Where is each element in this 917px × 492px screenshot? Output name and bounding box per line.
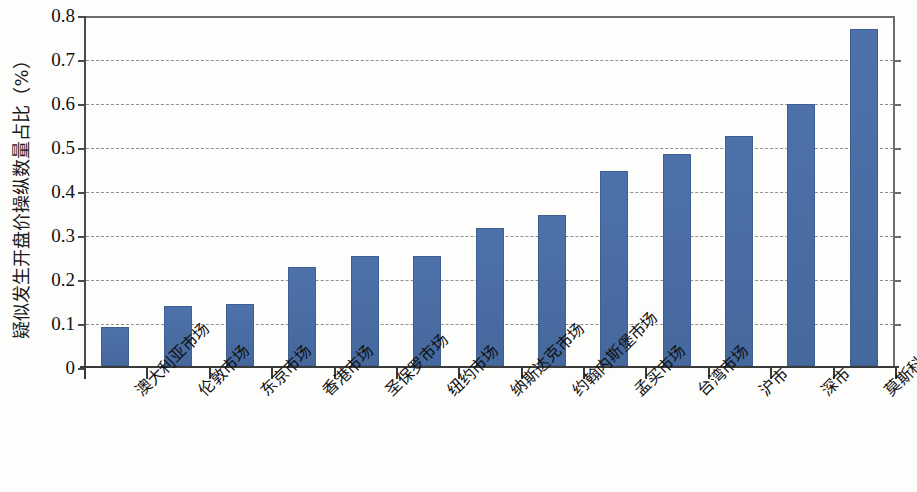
bar-chart: 疑似发生开盘价操纵数量占比（%） 0.80.70.60.50.40.30.20.… (0, 0, 917, 492)
y-axis-tick-label: 0.4 (51, 181, 75, 203)
gridline (86, 192, 893, 193)
plot-frame-top (84, 16, 895, 18)
y-axis-tick-mark-right (893, 192, 901, 194)
bar (725, 136, 753, 366)
x-axis-category-label: 纳斯达克市场 (504, 384, 521, 401)
bar (787, 104, 815, 366)
y-axis-tick-label: 0 (66, 357, 76, 379)
y-axis-tick-mark-right (893, 104, 901, 106)
y-axis-tick-mark (78, 16, 86, 18)
x-axis-category-label: 约翰内斯堡市场 (566, 384, 583, 401)
bar (850, 29, 878, 366)
x-axis-category-label: 香港市场 (316, 384, 333, 401)
y-axis-tick-mark (78, 280, 86, 282)
y-axis-tick-mark (78, 148, 86, 150)
y-axis-tick-mark-right (893, 324, 901, 326)
y-axis-tick-mark (78, 192, 86, 194)
y-axis-tick-label: 0.8 (51, 5, 75, 27)
bar (663, 154, 691, 366)
y-axis-tick-mark-right (893, 148, 901, 150)
y-axis-tick-label: 0.1 (51, 313, 75, 335)
bar (101, 327, 129, 366)
y-axis-tick-label: 0.7 (51, 49, 75, 71)
x-axis-category-label: 澳大利亚市场 (129, 384, 146, 401)
x-axis-category-label: 伦敦市场 (192, 384, 209, 401)
y-axis-title: 疑似发生开盘价操纵数量占比（%） (7, 7, 33, 383)
y-axis-tick-mark (78, 60, 86, 62)
gridline (86, 148, 893, 149)
y-axis-tick-mark-right (893, 60, 901, 62)
gridline (86, 60, 893, 61)
x-axis-category-label: 台湾市场 (691, 384, 708, 401)
y-axis-tick-label: 0.5 (51, 137, 75, 159)
y-axis-tick-mark (78, 104, 86, 106)
x-axis-category-label: 东京市场 (254, 384, 271, 401)
y-axis-tick-label: 0.3 (51, 225, 75, 247)
y-axis-tick-label: 0.2 (51, 269, 75, 291)
x-axis-category-label: 深市 (815, 384, 832, 401)
x-axis-category-label: 圣保罗市场 (379, 384, 396, 401)
y-axis-tick-mark (78, 324, 86, 326)
x-axis-category-label: 纽约市场 (441, 384, 458, 401)
x-axis-category-label: 孟买市场 (628, 384, 645, 401)
plot-area: 0.80.70.60.50.40.30.20.10 (84, 16, 895, 368)
gridline (86, 104, 893, 105)
y-axis-tick-mark-right (893, 236, 901, 238)
x-axis-category-label: 莫斯科市场 (878, 384, 895, 401)
y-axis-tick-label: 0.6 (51, 93, 75, 115)
y-axis-tick-mark (78, 236, 86, 238)
x-axis-category-label: 沪市 (753, 384, 770, 401)
y-axis-tick-mark-right (893, 280, 901, 282)
x-axis-tick-mark (84, 368, 86, 379)
